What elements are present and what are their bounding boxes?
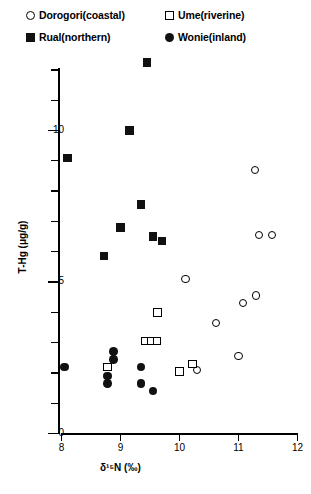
data-point-filled-circle	[137, 379, 146, 388]
y-tick-minor	[51, 100, 59, 101]
data-point-filled-square	[125, 126, 134, 135]
data-point-filled-square	[158, 237, 167, 246]
data-point-open-square	[153, 308, 162, 317]
x-tick-label: 12	[283, 443, 311, 453]
data-point-open-circle	[255, 231, 264, 240]
data-point-filled-square	[149, 232, 158, 241]
x-tick	[238, 433, 240, 441]
y-tick-label: 5	[24, 276, 64, 286]
x-tick	[61, 433, 63, 441]
x-axis-title: δ¹⁵N (‰)	[100, 463, 141, 473]
data-point-filled-square	[100, 252, 109, 261]
data-point-open-circle	[252, 291, 261, 300]
data-point-open-square	[175, 367, 184, 376]
y-tick-minor	[51, 69, 59, 70]
data-point-filled-square	[116, 223, 125, 232]
y-tick-minor	[51, 190, 59, 191]
scatter-plot: T-Hg (μg/g) δ¹⁵N (‰) 051089101112	[0, 52, 310, 494]
data-point-filled-circle	[103, 379, 112, 388]
y-tick-minor	[51, 251, 59, 252]
data-point-open-square	[103, 363, 112, 372]
x-tick	[179, 433, 181, 441]
data-point-filled-circle	[60, 363, 69, 372]
data-point-filled-square	[63, 154, 72, 163]
y-tick-minor	[51, 221, 59, 222]
data-point-filled-circle	[149, 387, 158, 396]
legend-item-dorogori: Dorogori(coastal)	[26, 10, 125, 21]
data-point-filled-square	[137, 200, 146, 209]
legend-item-ume: Ume(riverine)	[165, 10, 244, 21]
data-point-open-square	[153, 337, 162, 346]
plot-area: T-Hg (μg/g) δ¹⁵N (‰) 051089101112	[0, 52, 310, 494]
data-point-filled-square	[143, 58, 152, 67]
open-circle-icon	[26, 11, 35, 20]
x-tick	[297, 433, 299, 441]
open-square-icon	[165, 11, 174, 20]
chart-legend: Dorogori(coastal)Rual(northern)Ume(river…	[0, 0, 310, 52]
y-tick-minor	[51, 403, 59, 404]
filled-circle-icon	[165, 33, 174, 42]
y-tick-minor	[51, 342, 59, 343]
legend-item-label: Wonie(inland)	[178, 32, 246, 43]
data-point-open-circle	[234, 352, 243, 361]
x-tick-label: 10	[165, 443, 195, 453]
x-tick-label: 8	[47, 443, 77, 453]
data-point-open-square	[188, 360, 197, 369]
legend-item-wonie: Wonie(inland)	[165, 32, 246, 43]
y-tick-label: 10	[24, 125, 64, 135]
data-point-filled-circle	[137, 363, 146, 372]
x-tick-label: 11	[224, 443, 254, 453]
y-tick-minor	[51, 160, 59, 161]
y-tick-minor	[51, 372, 59, 373]
data-point-open-circle	[239, 299, 248, 308]
data-point-open-circle	[251, 166, 260, 175]
legend-item-rual: Rual(northern)	[26, 32, 111, 43]
x-tick	[120, 433, 122, 441]
legend-item-label: Ume(riverine)	[178, 10, 244, 21]
x-tick-label: 9	[106, 443, 136, 453]
filled-square-icon	[26, 33, 35, 42]
data-point-open-circle	[268, 231, 277, 240]
data-point-filled-circle	[109, 355, 118, 364]
data-point-open-circle	[181, 275, 190, 284]
y-tick-label: 0	[24, 428, 64, 438]
data-point-open-circle	[212, 319, 221, 328]
y-tick-minor	[51, 312, 59, 313]
legend-item-label: Dorogori(coastal)	[39, 10, 125, 21]
legend-item-label: Rual(northern)	[39, 32, 111, 43]
